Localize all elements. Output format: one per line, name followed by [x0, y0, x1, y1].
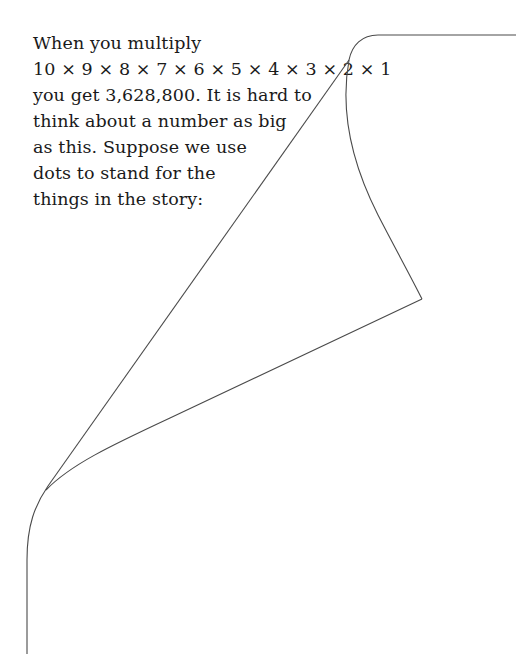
curl-right-edge [346, 60, 422, 299]
book-page: When you multiply 10 × 9 × 8 × 7 × 6 × 5… [0, 0, 516, 654]
curl-lower-edge [46, 299, 422, 490]
page-curl-illustration [0, 0, 516, 654]
page-top-edge [349, 35, 516, 60]
page-left-edge [27, 486, 48, 654]
fold-diagonal [48, 60, 349, 486]
